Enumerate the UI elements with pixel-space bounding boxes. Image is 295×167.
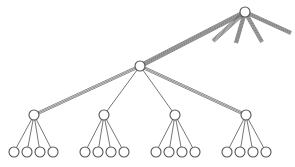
tree-node-root[interactable] [240, 7, 250, 17]
tree-node-l4c[interactable] [248, 147, 258, 157]
tree-node-l3a[interactable] [151, 147, 161, 157]
tree-node-l1c[interactable] [35, 147, 45, 157]
tree-node-g3[interactable] [170, 110, 180, 120]
tree-node-g1[interactable] [29, 110, 39, 120]
tree-node-g2[interactable] [99, 110, 109, 120]
tree-node-l2c[interactable] [106, 147, 116, 157]
tree-node-l1d[interactable] [48, 147, 58, 157]
tree-node-l3c[interactable] [177, 147, 187, 157]
tree-diagram-svg [0, 0, 295, 167]
tree-node-l2d[interactable] [119, 147, 129, 157]
tree-node-l2b[interactable] [93, 147, 103, 157]
tree-node-l3b[interactable] [164, 147, 174, 157]
tree-node-g4[interactable] [241, 110, 251, 120]
tree-node-mid[interactable] [135, 61, 145, 71]
tree-node-l1a[interactable] [9, 147, 19, 157]
tree-node-l4b[interactable] [235, 147, 245, 157]
tree-node-l4a[interactable] [222, 147, 232, 157]
tree-node-l3d[interactable] [190, 147, 200, 157]
tree-node-l4d[interactable] [261, 147, 271, 157]
tree-node-l1b[interactable] [22, 147, 32, 157]
tree-diagram-canvas [0, 0, 295, 167]
tree-node-l2a[interactable] [80, 147, 90, 157]
